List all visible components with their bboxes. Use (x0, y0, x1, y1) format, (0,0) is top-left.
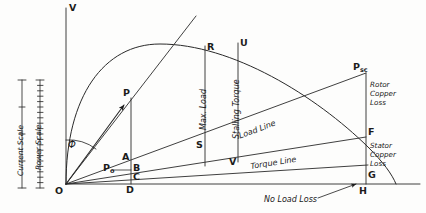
point-label-p0-base: P (103, 162, 110, 173)
point-label-p0: Po (103, 163, 114, 175)
point-label-a: A (122, 152, 129, 162)
point-label-f: F (368, 127, 375, 137)
axis-label-v: V (69, 3, 76, 13)
point-label-g: G (368, 170, 376, 180)
stator-copper-loss-line-2: Copper (370, 150, 396, 159)
power-scale-label: Power Scale (35, 124, 43, 170)
stator-copper-loss-line-3: Loss (370, 159, 396, 168)
point-label-p0-sub: o (110, 167, 114, 175)
stator-copper-loss-line-1: Stator (370, 141, 396, 150)
point-label-d: D (126, 185, 134, 195)
stator-copper-loss-label: Stator Copper Loss (370, 141, 396, 168)
point-label-h: H (359, 186, 367, 196)
max-load-label: Max. Load (200, 89, 208, 130)
rotor-copper-loss-line-2: Copper (370, 89, 396, 98)
origin-label-o: O (55, 186, 63, 196)
no-load-loss-label: No Load Loss (264, 196, 317, 204)
point-label-psc-base: P (353, 61, 360, 72)
point-label-r: R (207, 42, 214, 52)
torque-line (66, 137, 366, 184)
phi-angle-label: Φ (68, 140, 76, 150)
point-label-psc-sub: sc (360, 66, 368, 74)
current-scale-label: Current Scale (17, 125, 25, 176)
point-label-v: V (229, 157, 236, 167)
point-label-s: S (196, 140, 203, 150)
circle-diagram-canvas (0, 0, 426, 213)
point-label-u: U (240, 38, 248, 48)
rotor-copper-loss-label: Rotor Copper Loss (370, 80, 396, 107)
rotor-copper-loss-line-3: Loss (370, 98, 396, 107)
point-label-p: P (123, 88, 130, 98)
point-label-psc: Psc (353, 62, 368, 74)
rotor-copper-loss-line-1: Rotor (370, 80, 396, 89)
point-label-c: C (133, 172, 140, 182)
no-load-loss-arrow (318, 184, 356, 198)
